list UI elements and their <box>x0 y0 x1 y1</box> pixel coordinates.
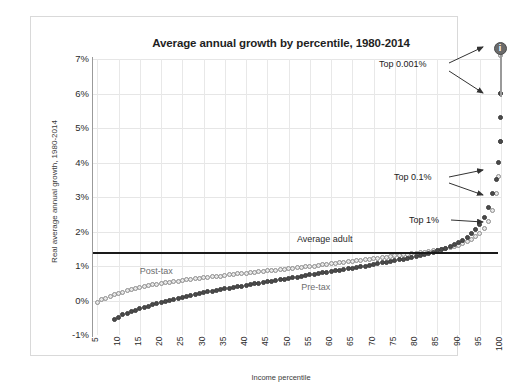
gridline <box>161 59 162 335</box>
gridline <box>93 197 501 198</box>
series-label-post-tax: Post-tax <box>140 266 173 276</box>
x-axis-tick: 40 <box>239 337 253 367</box>
gridline <box>267 59 268 335</box>
gridline <box>93 128 501 129</box>
y-axis-tick: 5% <box>55 122 89 133</box>
gridline <box>182 59 183 335</box>
data-point <box>477 231 482 236</box>
gridline <box>352 59 353 335</box>
gridline <box>437 59 438 335</box>
gridline <box>225 59 226 335</box>
plot-area: i <box>93 59 501 335</box>
data-point <box>498 115 503 120</box>
y-axis-tick-labels: 7%6%5%4%3%2%1%0%-1% <box>51 59 89 335</box>
x-axis-tick: 25 <box>175 337 189 367</box>
gridline <box>93 232 501 233</box>
y-axis-tick: 0% <box>55 295 89 306</box>
gridline <box>480 59 481 335</box>
x-axis-tick: 100 <box>494 337 508 367</box>
y-axis-tick: 3% <box>55 191 89 202</box>
x-axis-tick: 95 <box>473 337 487 367</box>
gridline <box>93 94 501 95</box>
average-adult-label: Average adult <box>297 234 352 244</box>
gridline <box>331 59 332 335</box>
x-axis-tick-labels: 5101520253035404550556065707580859095100 <box>93 337 501 373</box>
x-axis-tick: 15 <box>133 337 147 367</box>
x-axis-tick: 50 <box>282 337 296 367</box>
chart-frame: Average annual growth by percentile, 198… <box>30 16 458 356</box>
x-axis-tick: 55 <box>303 337 317 367</box>
gridline <box>310 59 311 335</box>
x-axis-tick: 90 <box>452 337 466 367</box>
data-point <box>465 235 470 240</box>
x-axis-tick: 60 <box>324 337 338 367</box>
gridline <box>140 59 141 335</box>
y-axis-tick: 7% <box>55 53 89 64</box>
gridline <box>97 59 98 335</box>
x-axis-tick: 75 <box>388 337 402 367</box>
x-axis-tick: 45 <box>260 337 274 367</box>
data-point <box>486 205 491 210</box>
info-marker-icon: i <box>494 42 507 55</box>
x-axis-tick: 20 <box>154 337 168 367</box>
x-axis-tick: 70 <box>367 337 381 367</box>
gridline <box>374 59 375 335</box>
annotation-top-1: Top 1% <box>409 215 439 225</box>
data-point <box>482 226 487 231</box>
x-axis-tick: 85 <box>430 337 444 367</box>
data-point <box>498 139 503 144</box>
gridline <box>93 59 501 60</box>
x-axis-tick: 35 <box>218 337 232 367</box>
x-axis-tick: 5 <box>90 337 104 367</box>
x-axis-tick: 10 <box>112 337 126 367</box>
y-axis-tick: 2% <box>55 226 89 237</box>
data-point <box>482 215 487 220</box>
series-label-pre-tax: Pre-tax <box>301 282 330 292</box>
y-axis-tick: -1% <box>55 329 89 340</box>
annotation-top-0001: Top 0.001% <box>379 59 427 69</box>
y-axis-tick: 6% <box>55 88 89 99</box>
average-adult-reference-line <box>93 252 498 254</box>
gridline <box>289 59 290 335</box>
gridline <box>501 59 502 335</box>
gridline <box>416 59 417 335</box>
gridline <box>395 59 396 335</box>
gridline <box>246 59 247 335</box>
x-axis-title: Income percentile <box>151 373 411 382</box>
x-axis-tick: 30 <box>197 337 211 367</box>
y-axis-tick: 4% <box>55 157 89 168</box>
x-axis-tick: 80 <box>409 337 423 367</box>
gridline <box>459 59 460 335</box>
chart-title: Average annual growth by percentile, 198… <box>131 37 431 49</box>
top-point-stem <box>500 52 502 97</box>
annotation-top-01: Top 0.1% <box>394 172 432 182</box>
gridline <box>93 163 501 164</box>
data-point <box>486 219 491 224</box>
x-axis-tick: 65 <box>345 337 359 367</box>
y-axis-tick: 1% <box>55 260 89 271</box>
